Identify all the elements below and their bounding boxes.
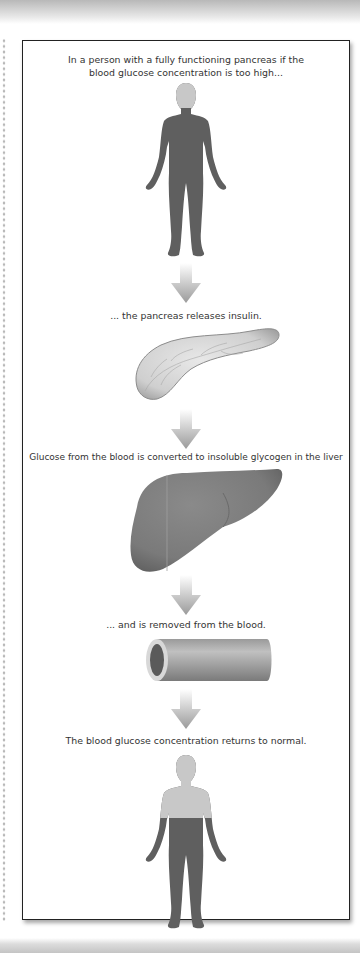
step-3-caption: Glucose from the blood is converted to i… [23, 451, 349, 464]
human-body-high-glucose-icon [143, 81, 229, 259]
human-body-normal-glucose-icon [143, 753, 229, 931]
blood-vessel-icon [143, 635, 273, 685]
dotted-margin [2, 38, 6, 922]
liver-icon [127, 467, 287, 577]
top-page-band [0, 0, 360, 24]
bottom-page-band [0, 938, 360, 953]
step-5-caption: The blood glucose concentration returns … [23, 734, 349, 747]
down-arrow-4 [171, 689, 201, 729]
down-arrow-2 [171, 409, 201, 449]
pancreas-icon [131, 325, 281, 401]
step-1-caption: In a person with a fully functioning pan… [63, 53, 309, 79]
step-4-caption: ... and is removed from the blood. [23, 618, 349, 631]
down-arrow-1 [171, 263, 201, 303]
step-2-caption: ... the pancreas releases insulin. [23, 309, 349, 322]
down-arrow-3 [171, 575, 201, 615]
diagram-panel: In a person with a fully functioning pan… [22, 40, 350, 920]
